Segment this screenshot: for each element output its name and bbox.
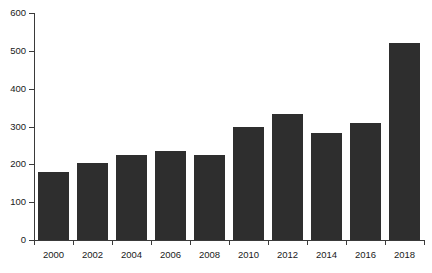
x-axis-tick	[307, 240, 308, 245]
y-axis-tick	[29, 89, 34, 90]
bar-2008	[194, 155, 225, 240]
x-axis-label-2018: 2018	[385, 250, 424, 260]
y-axis-tick-label-400: 400	[0, 84, 26, 94]
y-axis-tick	[29, 164, 34, 165]
bar-2000	[38, 172, 69, 240]
bar-2006	[155, 151, 186, 240]
x-axis-label-2004: 2004	[112, 250, 151, 260]
bar-2004	[116, 155, 147, 240]
y-axis-tick-label-text: 500	[0, 46, 26, 56]
y-axis-tick-label-text: 600	[0, 8, 26, 18]
y-axis-tick-label-text: 400	[0, 84, 26, 94]
y-axis-tick	[29, 51, 34, 52]
y-axis-tick-label-0: 0	[0, 235, 26, 245]
y-axis-tick-label-text: 300	[0, 122, 26, 132]
bar-2012	[272, 114, 303, 240]
y-axis-tick	[29, 202, 34, 203]
x-axis-label-2016: 2016	[346, 250, 385, 260]
bar-2010	[233, 127, 264, 241]
bar-2016	[350, 123, 381, 240]
plot-area: 600 500 400 300 200 100 0	[0, 0, 432, 273]
x-axis-label-2014: 2014	[307, 250, 346, 260]
x-axis-label-2012: 2012	[268, 250, 307, 260]
x-axis-label-2006: 2006	[151, 250, 190, 260]
y-axis-tick-label-300: 300	[0, 122, 26, 132]
y-axis-line	[34, 13, 35, 241]
x-axis-tick	[385, 240, 386, 245]
y-axis-tick-label-text: 100	[0, 197, 26, 207]
y-axis-tick-label-text: 200	[0, 159, 26, 169]
x-axis-tick	[190, 240, 191, 245]
x-axis-label-2000: 2000	[34, 250, 73, 260]
bar-2018	[389, 43, 420, 240]
x-axis-label-2010: 2010	[229, 250, 268, 260]
x-axis-label-2002: 2002	[73, 250, 112, 260]
x-axis-tick	[268, 240, 269, 245]
x-axis-tick	[229, 240, 230, 245]
y-axis-tick	[29, 13, 34, 14]
y-axis-tick-label-500: 500	[0, 46, 26, 56]
bar-2014	[311, 133, 342, 240]
bar-chart: 600 500 400 300 200 100 0	[0, 0, 432, 273]
x-axis-tick	[424, 240, 425, 245]
y-axis-tick-label-text: 0	[0, 235, 26, 245]
x-axis-label-2008: 2008	[190, 250, 229, 260]
x-axis-tick	[73, 240, 74, 245]
x-axis-tick	[346, 240, 347, 245]
y-axis-tick-label-600: 600	[0, 8, 26, 18]
y-axis-tick-label-100: 100	[0, 197, 26, 207]
y-axis-tick-label-200: 200	[0, 159, 26, 169]
y-axis-tick	[29, 127, 34, 128]
x-axis-tick	[151, 240, 152, 245]
x-axis-tick	[34, 240, 35, 245]
bar-2002	[77, 163, 108, 240]
x-axis-tick	[112, 240, 113, 245]
